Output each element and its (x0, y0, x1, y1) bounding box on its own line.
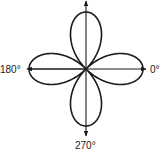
label-0-degrees: 0° (150, 64, 160, 75)
polar-diagram: 0° 180° 270° (0, 0, 168, 152)
label-180-degrees: 180° (0, 64, 21, 75)
label-270-degrees: 270° (75, 140, 96, 151)
